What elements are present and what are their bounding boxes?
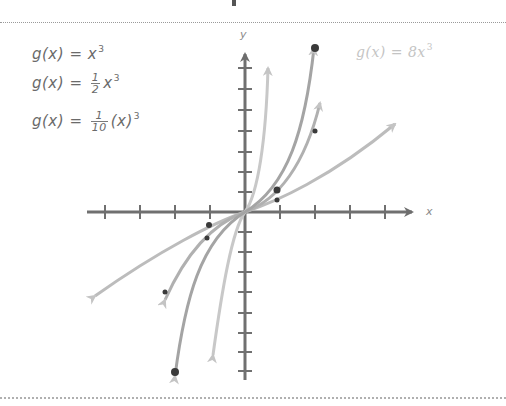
equation-half-x-cubed: g(x) = 12x3 [32,72,120,95]
fraction-half: 12 [91,72,101,95]
equation-tenth-x-cubed: g(x) = 110(x)3 [32,110,140,133]
marked-points [163,44,320,376]
curve-half-x-cubed [165,103,320,300]
equation-eight-x-cubed: g(x) = 8x3 [356,42,433,60]
x-axis-label: x [426,205,433,218]
fraction-tenth: 110 [91,110,108,133]
y-axis-label: y [240,28,247,41]
equation-x-cubed: g(x) = x3 [32,44,104,63]
